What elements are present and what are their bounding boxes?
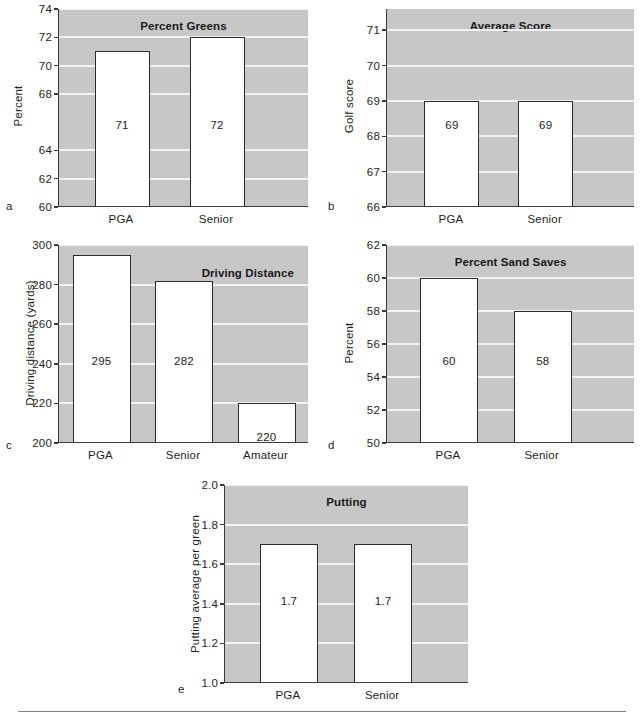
y-axis-tick-mark xyxy=(382,206,386,208)
y-axis-tick-mark xyxy=(382,171,386,173)
bar-value-label: 1.7 xyxy=(260,595,318,607)
bar-senior xyxy=(518,101,573,207)
y-axis-tick-label: 68 xyxy=(22,88,52,100)
x-axis-tick-label: Senior xyxy=(138,449,228,461)
y-axis-tick-label: 56 xyxy=(350,338,380,350)
chart-title-e: Putting xyxy=(225,496,468,508)
y-axis-tick-label: 68 xyxy=(350,130,380,142)
y-axis-tick-mark xyxy=(382,244,386,246)
x-axis-tick-label: PGA xyxy=(76,213,166,225)
bar-value-label: 1.7 xyxy=(354,595,412,607)
x-axis-tick-label: PGA xyxy=(243,689,333,701)
y-axis-tick-mark xyxy=(220,643,224,645)
y-axis-tick-label: 69 xyxy=(350,95,380,107)
x-axis-tick-label: Senior xyxy=(337,689,427,701)
y-axis-tick-label: 1.8 xyxy=(188,519,218,531)
panel-letter-b: b xyxy=(328,200,334,212)
y-axis-tick-mark xyxy=(54,93,58,95)
x-axis-tick-label: PGA xyxy=(406,213,496,225)
plot-area-b: Average Score 6969 xyxy=(386,9,634,207)
panel-e: e Putting average per green Putting 1.71… xyxy=(160,478,482,713)
y-axis-tick-mark xyxy=(382,442,386,444)
y-axis-tick-mark xyxy=(220,563,224,565)
y-axis-tick-mark xyxy=(382,343,386,345)
y-axis-tick-label: 70 xyxy=(22,60,52,72)
y-axis-tick-label: 1.0 xyxy=(188,677,218,689)
y-axis-tick-mark xyxy=(54,8,58,10)
y-axis-tick-mark xyxy=(382,376,386,378)
y-axis-tick-label: 200 xyxy=(22,437,52,449)
y-axis-tick-mark xyxy=(54,403,58,405)
y-axis-tick-label: 240 xyxy=(22,358,52,370)
bar-senior xyxy=(354,544,412,683)
panel-a: a Percent Percent Greens 7172 6062646870… xyxy=(0,0,322,230)
y-axis-tick-label: 54 xyxy=(350,371,380,383)
y-axis-tick-label: 74 xyxy=(22,3,52,15)
gridline xyxy=(387,65,634,67)
y-axis-tick-label: 1.4 xyxy=(188,598,218,610)
y-axis-tick-mark xyxy=(382,409,386,411)
y-axis-tick-mark xyxy=(220,682,224,684)
panel-letter-d: d xyxy=(328,439,334,451)
y-axis-label-a: Percent xyxy=(12,66,24,146)
y-axis-tick-mark xyxy=(54,442,58,444)
y-axis-tick-mark xyxy=(54,178,58,180)
gridline xyxy=(225,524,468,526)
y-axis-tick-mark xyxy=(382,29,386,31)
y-axis-tick-mark xyxy=(54,65,58,67)
y-axis-tick-mark xyxy=(220,484,224,486)
bar-value-label: 69 xyxy=(518,119,573,131)
x-axis-tick-label: Senior xyxy=(500,213,590,225)
y-axis-tick-label: 2.0 xyxy=(188,479,218,491)
panel-letter-c: c xyxy=(6,439,12,451)
gridline xyxy=(387,29,634,31)
y-axis-tick-label: 300 xyxy=(22,239,52,251)
y-axis-tick-label: 260 xyxy=(22,318,52,330)
y-axis-tick-label: 67 xyxy=(350,166,380,178)
y-axis-tick-label: 280 xyxy=(22,279,52,291)
y-axis-tick-label: 52 xyxy=(350,404,380,416)
y-axis-tick-mark xyxy=(54,206,58,208)
x-axis-tick-label: Amateur xyxy=(221,449,311,461)
y-axis-tick-mark xyxy=(54,363,58,365)
plot-area-c: Driving Distance 295282220 xyxy=(58,245,308,443)
chart-title-d: Percent Sand Saves xyxy=(387,256,634,268)
bar-value-label: 60 xyxy=(420,355,478,367)
y-axis-tick-mark xyxy=(54,150,58,152)
panel-b: b Golf score Average Score 6969 66676869… xyxy=(322,0,644,230)
chart-title-c: Driving Distance xyxy=(202,267,294,279)
y-axis-tick-mark xyxy=(54,284,58,286)
y-axis-tick-mark xyxy=(220,524,224,526)
gridline xyxy=(59,36,308,38)
gridline xyxy=(387,245,634,246)
y-axis-tick-label: 62 xyxy=(350,239,380,251)
y-axis-tick-mark xyxy=(382,310,386,312)
x-axis-tick-label: PGA xyxy=(56,449,146,461)
y-axis-tick-label: 64 xyxy=(22,144,52,156)
gridline xyxy=(59,9,308,10)
y-axis-tick-mark xyxy=(54,37,58,39)
panel-letter-a: a xyxy=(6,200,12,212)
y-axis-tick-mark xyxy=(220,603,224,605)
bar-senior xyxy=(514,311,572,443)
plot-area-a: Percent Greens 7172 xyxy=(58,9,308,207)
y-axis-tick-mark xyxy=(382,65,386,67)
y-axis-tick-label: 66 xyxy=(350,201,380,213)
x-axis-tick-label: Senior xyxy=(171,213,261,225)
y-axis-tick-label: 50 xyxy=(350,437,380,449)
bottom-rule xyxy=(18,711,626,712)
panel-letter-e: e xyxy=(178,683,184,695)
bar-value-label: 72 xyxy=(190,119,245,131)
bar-value-label: 282 xyxy=(155,355,213,367)
y-axis-tick-mark xyxy=(382,277,386,279)
y-axis-tick-mark xyxy=(54,244,58,246)
bar-pga xyxy=(73,255,131,443)
chart-title-a: Percent Greens xyxy=(59,20,308,32)
gridline xyxy=(225,485,468,486)
y-axis-tick-label: 62 xyxy=(22,173,52,185)
y-axis-tick-label: 1.2 xyxy=(188,637,218,649)
panel-c: c Driving distance (yards) Driving Dista… xyxy=(0,237,322,472)
x-axis-tick-label: Senior xyxy=(497,449,587,461)
y-axis-tick-label: 70 xyxy=(350,60,380,72)
bar-value-label: 220 xyxy=(238,431,296,443)
